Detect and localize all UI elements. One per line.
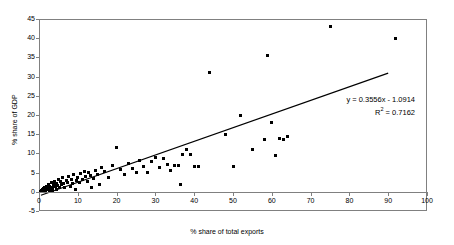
x-tickmark — [349, 192, 350, 196]
data-point — [142, 165, 145, 168]
data-point — [274, 154, 277, 157]
data-point — [239, 114, 242, 117]
x-tickmark — [427, 192, 428, 196]
y-tick-label: 0 — [13, 188, 35, 195]
y-tickmark — [36, 96, 39, 97]
data-point — [84, 175, 87, 178]
data-point — [96, 173, 99, 176]
data-point — [181, 153, 184, 156]
data-point — [76, 176, 79, 179]
data-point — [63, 186, 66, 189]
data-point — [278, 137, 281, 140]
data-point — [61, 176, 64, 179]
data-point — [185, 148, 188, 151]
y-tickmark — [36, 115, 39, 116]
data-point — [266, 54, 269, 57]
data-point — [208, 71, 211, 74]
data-point — [123, 173, 126, 176]
data-point — [131, 167, 134, 170]
x-tickmark — [311, 192, 312, 196]
data-point — [329, 25, 332, 28]
x-tick-label: 30 — [143, 197, 167, 204]
data-point — [282, 138, 285, 141]
data-point — [66, 181, 69, 184]
r-squared-label: R2 = 0.7162 — [300, 106, 415, 117]
data-point — [173, 164, 176, 167]
data-point — [94, 169, 97, 172]
data-point — [103, 170, 106, 173]
x-tickmark — [39, 192, 40, 196]
y-tickmark — [36, 211, 39, 212]
data-point — [111, 164, 114, 167]
y-tickmark — [36, 19, 39, 20]
data-point — [251, 148, 254, 151]
trendline — [0, 0, 454, 245]
x-tick-label: 10 — [66, 197, 90, 204]
x-tickmark — [194, 192, 195, 196]
data-point — [179, 183, 182, 186]
x-tickmark — [117, 192, 118, 196]
y-tickmark — [36, 57, 39, 58]
data-point — [71, 182, 74, 185]
data-point — [286, 135, 289, 138]
scatter-chart: -505101520253035404501020304050607080901… — [0, 0, 454, 245]
data-point — [127, 162, 130, 165]
y-tick-label: 40 — [13, 34, 35, 41]
data-point — [177, 164, 180, 167]
x-tickmark — [272, 192, 273, 196]
y-tick-label: 45 — [13, 15, 35, 22]
data-point — [197, 165, 200, 168]
data-point — [135, 171, 138, 174]
y-tickmark — [36, 38, 39, 39]
data-point — [169, 169, 172, 172]
data-point — [86, 180, 89, 183]
data-point — [74, 188, 77, 191]
data-point — [107, 176, 110, 179]
data-point — [158, 166, 161, 169]
y-tick-label: 35 — [13, 53, 35, 60]
data-point — [150, 160, 153, 163]
y-tick-label: 30 — [13, 73, 35, 80]
data-point — [189, 153, 192, 156]
data-point — [162, 157, 165, 160]
x-tick-label: 70 — [299, 197, 323, 204]
x-axis-title: % share of total exports — [0, 228, 454, 235]
x-tick-label: 40 — [182, 197, 206, 204]
y-tick-label: 5 — [13, 169, 35, 176]
x-tick-label: 0 — [27, 197, 51, 204]
data-point — [98, 183, 101, 186]
x-tick-label: 20 — [105, 197, 129, 204]
data-point — [232, 165, 235, 168]
data-point — [78, 181, 81, 184]
x-tickmark — [388, 192, 389, 196]
data-point — [83, 170, 86, 173]
x-tickmark — [233, 192, 234, 196]
data-point — [58, 186, 61, 189]
data-point — [69, 185, 72, 188]
x-tickmark — [155, 192, 156, 196]
data-point — [138, 159, 141, 162]
data-point — [166, 163, 169, 166]
data-point — [81, 178, 84, 181]
data-point — [394, 37, 397, 40]
x-tick-label: 80 — [337, 197, 361, 204]
x-tick-label: 90 — [376, 197, 400, 204]
y-tickmark — [36, 173, 39, 174]
y-tickmark — [36, 134, 39, 135]
x-tick-label: 60 — [260, 197, 284, 204]
y-tickmark — [36, 77, 39, 78]
data-point — [115, 146, 118, 149]
data-point — [70, 178, 73, 181]
data-point — [119, 168, 122, 171]
data-point — [154, 156, 157, 159]
y-axis-title: % share of GDP — [11, 94, 18, 145]
data-point — [270, 121, 273, 124]
data-point — [72, 173, 75, 176]
data-point — [224, 133, 227, 136]
data-point — [193, 165, 196, 168]
y-tick-label: -5 — [13, 207, 35, 214]
data-point — [146, 171, 149, 174]
x-tick-label: 100 — [415, 197, 439, 204]
y-tickmark — [36, 153, 39, 154]
y-tick-label: 10 — [13, 149, 35, 156]
